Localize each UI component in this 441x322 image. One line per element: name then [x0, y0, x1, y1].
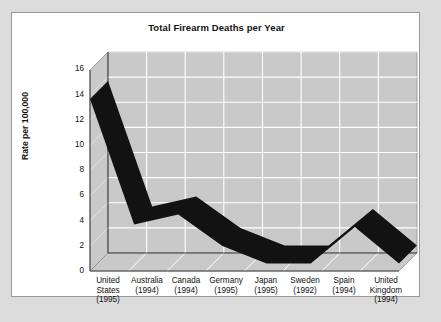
- x-tick-label-united-states: United States (1995): [86, 276, 130, 305]
- x-tick-line: (1994): [359, 295, 413, 305]
- y-tick-label: 2: [62, 241, 84, 250]
- y-tick-label: 6: [62, 190, 84, 199]
- x-tick-line: (1995): [203, 286, 249, 296]
- x-tick-line: United: [86, 276, 130, 286]
- screenshot-root: Total Firearm Deaths per Year Rate per 1…: [0, 0, 441, 322]
- chart-card: Total Firearm Deaths per Year Rate per 1…: [11, 12, 420, 297]
- x-tick-line: States: [86, 286, 130, 296]
- y-tick-label: 10: [62, 140, 84, 149]
- y-tick-label: 16: [62, 64, 84, 73]
- y-tick-label: 4: [62, 216, 84, 225]
- y-tick-label: 0: [62, 266, 84, 275]
- y-tick-label: 8: [62, 165, 84, 174]
- x-tick-label-united-kingdom: United Kingdom (1994): [359, 276, 413, 305]
- x-tick-line: (1994): [164, 286, 208, 296]
- y-tick-label: 12: [62, 115, 84, 124]
- x-tick-line: Australia: [125, 276, 169, 286]
- x-tick-line: (1995): [86, 295, 130, 305]
- x-tick-line: (1994): [125, 286, 169, 296]
- x-tick-line: Germany: [203, 276, 249, 286]
- x-tick-label-australia: Australia (1994): [125, 276, 169, 295]
- x-tick-label-germany: Germany (1995): [203, 276, 249, 295]
- chart-svg: [12, 13, 421, 298]
- x-tick-line: United: [359, 276, 413, 286]
- x-tick-label-canada: Canada (1994): [164, 276, 208, 295]
- x-tick-line: Canada: [164, 276, 208, 286]
- x-tick-line: Kingdom: [359, 286, 413, 296]
- plot-area: 0 2 4 6 8 10 12 14 16 United States (199…: [12, 13, 421, 298]
- y-tick-label: 14: [62, 90, 84, 99]
